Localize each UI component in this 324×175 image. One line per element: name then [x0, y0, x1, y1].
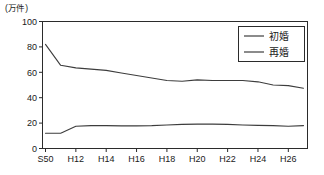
x-tick-label: H12 — [68, 154, 85, 164]
x-axis-tick-labels: S50H12H14H16H18H20H22H24H26 — [37, 154, 296, 164]
y-axis-tick-labels: 020406080100 — [22, 17, 37, 154]
y-tick-label: 20 — [27, 118, 37, 128]
marriage-line-chart: (万件) 020406080100 S50H12H14H16H18H20H22H… — [0, 0, 324, 175]
x-tick-label: H24 — [250, 154, 267, 164]
y-tick-label: 60 — [27, 68, 37, 78]
y-tick-label: 0 — [32, 144, 37, 154]
legend-label-saikon: 再婚 — [269, 46, 289, 58]
y-tick-label: 80 — [27, 42, 37, 52]
y-tick-label: 100 — [22, 17, 37, 27]
x-tick-label: H18 — [159, 154, 176, 164]
y-tick-label: 40 — [27, 93, 37, 103]
legend-label-shokon: 初婚 — [269, 30, 289, 42]
x-tick-label: H20 — [189, 154, 206, 164]
x-tick-label: H16 — [128, 154, 145, 164]
x-tick-label: H22 — [219, 154, 236, 164]
x-tick-label: S50 — [37, 154, 53, 164]
series-line-saikon — [46, 124, 304, 133]
x-tick-label: H26 — [280, 154, 297, 164]
chart-legend: 初婚再婚 — [239, 27, 305, 62]
x-tick-label: H14 — [98, 154, 115, 164]
chart-plot-svg: 020406080100 S50H12H14H16H18H20H22H24H26… — [0, 0, 324, 175]
